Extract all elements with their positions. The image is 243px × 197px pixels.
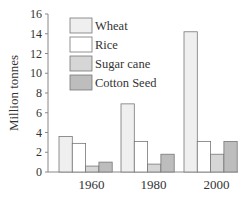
bar-cotton-seed-2000 (224, 141, 237, 172)
legend-label: Wheat (95, 19, 128, 33)
legend-label: Rice (95, 38, 118, 52)
y-tick-label: 14 (30, 27, 42, 41)
legend-label: Cotton Seed (95, 76, 157, 90)
legend-item: Sugar cane (70, 56, 151, 71)
bar-rice-1960 (72, 143, 85, 172)
y-tick-label: 2 (36, 145, 42, 159)
bar-sugar-cane-1980 (148, 164, 161, 172)
bar-cotton-seed-1960 (99, 162, 112, 172)
bar-rice-2000 (197, 141, 210, 172)
bars (59, 32, 237, 172)
bar-group-2000 (184, 32, 237, 172)
y-tick-label: 6 (36, 106, 42, 120)
legend-label: Sugar cane (95, 57, 151, 71)
bar-rice-1980 (134, 141, 147, 172)
y-tick-label: 16 (30, 7, 42, 21)
bar-sugar-cane-1960 (86, 166, 99, 172)
legend-item: Rice (70, 37, 118, 52)
legend-swatch (70, 75, 92, 90)
y-tick-label: 4 (36, 126, 42, 140)
bar-group-1980 (121, 104, 174, 172)
legend-swatch (70, 18, 92, 33)
y-tick-label: 8 (36, 86, 42, 100)
bar-group-1960 (59, 136, 112, 172)
bar-chart: 0246810121416 196019802000 WheatRiceSuga… (0, 0, 243, 197)
bar-cotton-seed-1980 (161, 154, 174, 172)
x-tick-label: 1960 (79, 177, 105, 192)
y-axis: 0246810121416 (30, 7, 48, 179)
y-tick-label: 10 (30, 66, 42, 80)
x-tick-label: 1980 (141, 177, 167, 192)
bar-wheat-1980 (121, 104, 134, 172)
x-axis: 196019802000 (48, 172, 238, 192)
legend-swatch (70, 37, 92, 52)
y-tick-label: 0 (36, 165, 42, 179)
bar-wheat-2000 (184, 32, 197, 172)
y-axis-label: Million tonnes (6, 55, 21, 131)
legend-item: Cotton Seed (70, 75, 157, 90)
bar-wheat-1960 (59, 136, 72, 172)
legend-item: Wheat (70, 18, 128, 33)
legend-swatch (70, 56, 92, 71)
x-tick-label: 2000 (204, 177, 230, 192)
y-tick-label: 12 (30, 47, 42, 61)
bar-sugar-cane-2000 (211, 154, 224, 172)
legend: WheatRiceSugar caneCotton Seed (70, 18, 157, 90)
